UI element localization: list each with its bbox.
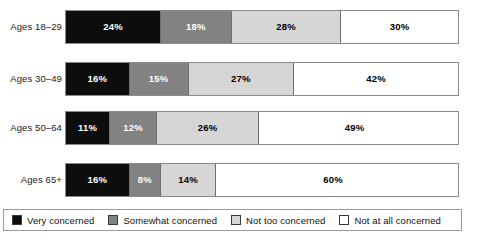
legend-item-very-concerned[interactable]: Very concerned: [12, 215, 94, 226]
chart-row: Ages 65+ 16% 8% 14% 60%: [0, 162, 479, 197]
bar-segment[interactable]: 15%: [129, 63, 188, 95]
bar-segment[interactable]: 16%: [66, 164, 129, 196]
bar-segment[interactable]: 12%: [109, 112, 156, 144]
legend-swatch-icon: [339, 215, 349, 225]
bar-segment[interactable]: 60%: [215, 164, 450, 196]
legend-swatch-icon: [108, 215, 118, 225]
bar-segment[interactable]: 14%: [160, 164, 215, 196]
legend-label: Not too concerned: [246, 215, 325, 226]
bar-segment[interactable]: 24%: [66, 11, 160, 43]
chart-legend: Very concerned Somewhat concerned Not to…: [3, 209, 462, 231]
legend-label: Somewhat concerned: [123, 215, 217, 226]
bar-segment[interactable]: 49%: [258, 112, 450, 144]
stacked-bar-track: 11% 12% 26% 49%: [65, 111, 459, 145]
legend-item-not-at-all-concerned[interactable]: Not at all concerned: [339, 215, 441, 226]
chart-row: Ages 30–49 16% 15% 27% 42%: [0, 61, 479, 96]
legend-item-not-too-concerned[interactable]: Not too concerned: [231, 215, 325, 226]
bar-segment[interactable]: 42%: [293, 63, 458, 95]
bar-segment[interactable]: 16%: [66, 63, 129, 95]
legend-item-somewhat-concerned[interactable]: Somewhat concerned: [108, 215, 217, 226]
legend-label: Very concerned: [27, 215, 94, 226]
legend-swatch-icon: [12, 215, 22, 225]
row-label: Ages 65+: [0, 174, 65, 185]
row-label: Ages 50–64: [0, 122, 65, 133]
bar-segment[interactable]: 26%: [156, 112, 258, 144]
stacked-bar-chart: Ages 18–29 24% 18% 28% 30% Ages 30–49 16…: [0, 0, 479, 241]
bar-segment[interactable]: 18%: [160, 11, 231, 43]
bar-segment[interactable]: 27%: [188, 63, 294, 95]
bar-segment[interactable]: 30%: [340, 11, 458, 43]
chart-row: Ages 50–64 11% 12% 26% 49%: [0, 110, 479, 145]
bar-segment[interactable]: 8%: [129, 164, 160, 196]
row-label: Ages 30–49: [0, 73, 65, 84]
stacked-bar-track: 16% 15% 27% 42%: [65, 62, 459, 96]
bar-segment[interactable]: 28%: [231, 11, 341, 43]
stacked-bar-track: 24% 18% 28% 30%: [65, 10, 459, 44]
bar-segment[interactable]: 11%: [66, 112, 109, 144]
legend-swatch-icon: [231, 215, 241, 225]
stacked-bar-track: 16% 8% 14% 60%: [65, 163, 459, 197]
row-label: Ages 18–29: [0, 21, 65, 32]
chart-row: Ages 18–29 24% 18% 28% 30%: [0, 9, 479, 44]
legend-label: Not at all concerned: [354, 215, 441, 226]
